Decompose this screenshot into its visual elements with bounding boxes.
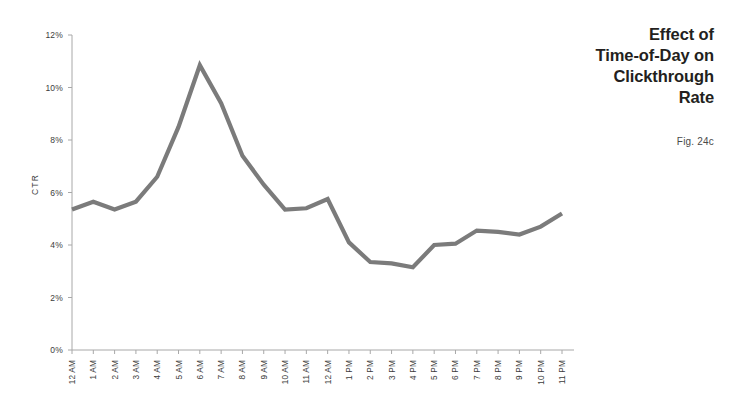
y-axis-title: CTR	[30, 174, 40, 195]
x-tick-label: 5 PM	[430, 360, 439, 380]
x-tick-label: 3 PM	[388, 360, 397, 380]
y-tick-label: 8%	[50, 135, 63, 145]
x-tick-label: 11 PM	[558, 360, 567, 384]
x-tick-label: 6 PM	[451, 360, 460, 380]
y-tick-label: 2%	[50, 293, 63, 303]
x-tick-label: 7 PM	[473, 360, 482, 380]
x-tick-label: 2 AM	[111, 360, 120, 379]
x-tick-label: 12 AM	[324, 360, 333, 384]
x-tick-label: 10 AM	[281, 360, 290, 384]
x-tick-label: 10 PM	[537, 360, 546, 385]
x-tick-label: 4 PM	[409, 360, 418, 380]
x-tick-label: 2 PM	[366, 360, 375, 380]
y-tick-label: 0%	[50, 345, 63, 355]
x-tick-label: 9 AM	[260, 360, 269, 379]
chart-title: Effect of Time-of-Day on Clickthrough Ra…	[454, 24, 714, 108]
x-tick-label: 1 AM	[89, 360, 98, 379]
x-tick-label: 3 AM	[132, 360, 141, 379]
x-tick-label: 1 PM	[345, 360, 354, 380]
y-tick-label: 10%	[45, 83, 63, 93]
x-tick-label: 9 PM	[515, 360, 524, 380]
x-tick-label: 8 PM	[494, 360, 503, 380]
x-tick-label: 8 AM	[238, 360, 247, 379]
x-tick-label: 5 AM	[175, 360, 184, 379]
x-tick-label: 11 AM	[302, 360, 311, 384]
x-tick-label: 6 AM	[196, 360, 205, 379]
y-tick-label: 6%	[50, 188, 63, 198]
figure-caption: Fig. 24c	[454, 108, 714, 147]
x-tick-label: 4 AM	[153, 360, 162, 379]
x-tick-label: 12 AM	[68, 360, 77, 384]
title-block: Effect of Time-of-Day on Clickthrough Ra…	[454, 24, 714, 147]
x-tick-label: 7 AM	[217, 360, 226, 379]
y-tick-label: 4%	[50, 240, 63, 250]
y-tick-label: 12%	[45, 30, 63, 40]
